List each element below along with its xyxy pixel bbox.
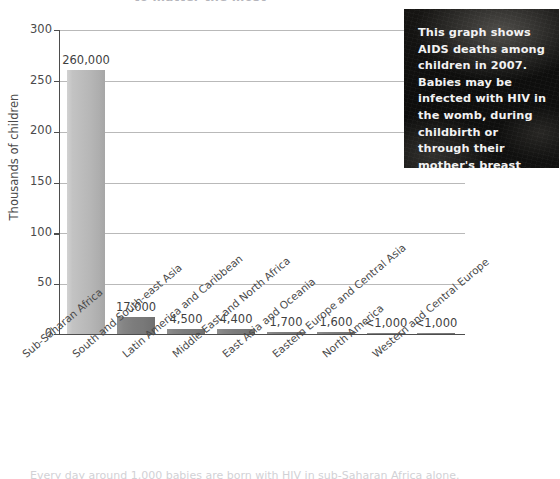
bar-slot-latin-america-and-caribbean[interactable]: 4,500 [167, 30, 205, 335]
bar-western-and-central-europe[interactable]: <1,000 [417, 333, 455, 334]
bar-east-asia-and-oceania[interactable]: 1,700 [267, 332, 305, 334]
info-box-body: This graph shows AIDS deaths among child… [404, 9, 559, 168]
y-tick-label: 50 [8, 277, 52, 288]
bottom-caption-clipped: Every day around 1,000 babies are born w… [0, 470, 560, 479]
chart-title-text: to matter the most [0, 0, 400, 4]
bar-sub-saharan-africa[interactable]: 260,000 [67, 70, 105, 334]
bar-slot-eastern-europe-and-central-asia[interactable]: 1,600 [317, 30, 355, 335]
info-box: This graph shows AIDS deaths among child… [404, 9, 559, 168]
bar-north-america[interactable]: <1,000 [367, 333, 405, 334]
bar-slot-middle-east-and-north-africa[interactable]: 4,400 [217, 30, 255, 335]
y-tick-label: 250 [8, 75, 52, 86]
bar-south-and-south-east-asia[interactable]: 17,000 [117, 317, 155, 334]
bar-slot-east-asia-and-oceania[interactable]: 1,700 [267, 30, 305, 335]
bar-value-label: 17,000 [116, 301, 156, 313]
chart-title-clipped: to matter the most [0, 0, 400, 7]
bar-slot-south-and-south-east-asia[interactable]: 17,000 [117, 30, 155, 335]
bar-value-label: 1,700 [270, 316, 303, 328]
bar-eastern-europe-and-central-asia[interactable]: 1,600 [317, 332, 355, 334]
bar-value-label: 4,500 [170, 313, 203, 325]
y-tick-label: 300 [8, 24, 52, 35]
bar-value-label: 260,000 [62, 54, 110, 66]
bar-latin-america-and-caribbean[interactable]: 4,500 [167, 329, 205, 334]
info-box-text: This graph shows AIDS deaths among child… [418, 25, 547, 168]
bar-value-label: <1,000 [415, 317, 458, 329]
bar-value-label: 4,400 [220, 313, 253, 325]
bar-value-label: 1,600 [320, 316, 353, 328]
y-tick-label: 150 [8, 176, 52, 187]
bar-middle-east-and-north-africa[interactable]: 4,400 [217, 329, 255, 334]
bar-slot-sub-saharan-africa[interactable]: 260,000 [67, 30, 105, 335]
y-axis-tick-labels: 300 250 200 150 100 50 0 [0, 30, 52, 335]
bar-slot-north-america[interactable]: <1,000 [367, 30, 405, 335]
y-tick-label: 0 [8, 328, 52, 339]
chart-page: to matter the most Thousands of children… [0, 0, 560, 479]
bar-value-label: <1,000 [365, 317, 408, 329]
y-tick-label: 200 [8, 125, 52, 136]
bottom-caption-text: Every day around 1,000 babies are born w… [0, 470, 560, 479]
y-tick-label: 100 [8, 227, 52, 238]
